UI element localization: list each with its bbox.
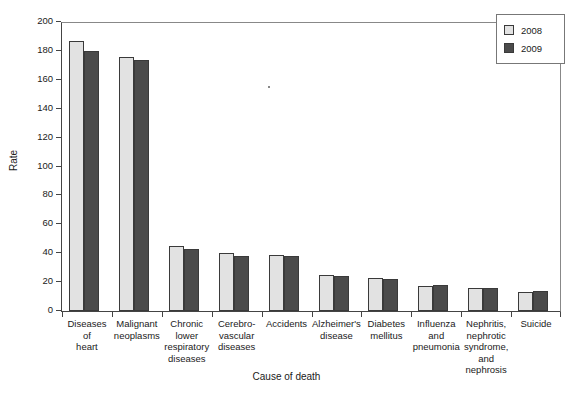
bar-2008[interactable] <box>468 288 483 311</box>
legend-entry-2008[interactable]: 2008 <box>504 21 558 39</box>
bar-2008[interactable] <box>169 246 184 311</box>
y-tick-label: 60 <box>42 217 53 228</box>
bar-2008[interactable] <box>368 278 383 311</box>
bar-group <box>511 22 561 311</box>
y-axis-title: Rate <box>8 141 19 181</box>
bar-2009[interactable] <box>334 276 349 311</box>
chart-legend: 20082009 <box>496 14 565 64</box>
y-tick-label: 0 <box>48 304 53 315</box>
x-axis-label: Suicide <box>507 318 565 330</box>
y-tick-mark <box>56 137 61 138</box>
legend-swatch-icon <box>504 25 514 35</box>
x-axis-label-line: heart <box>58 341 116 353</box>
legend-label: 2009 <box>521 43 542 54</box>
y-tick-label: 180 <box>37 44 53 55</box>
y-tick-label: 120 <box>37 131 53 142</box>
y-tick-label: 80 <box>42 188 53 199</box>
x-axis-label-line: vascular <box>208 330 266 342</box>
x-tick-mark <box>511 312 512 317</box>
y-tick-mark <box>56 166 61 167</box>
bar-2009[interactable] <box>284 256 299 311</box>
y-tick-mark <box>56 194 61 195</box>
x-tick-mark <box>560 312 561 317</box>
bar-group <box>361 22 411 311</box>
y-tick-mark <box>56 252 61 253</box>
x-axis-label-line: and <box>457 353 515 365</box>
y-tick-mark <box>56 21 61 22</box>
bar-group <box>212 22 262 311</box>
bar-2009[interactable] <box>433 285 448 311</box>
x-tick-mark <box>112 312 113 317</box>
legend-swatch-icon <box>504 43 514 53</box>
x-tick-mark <box>212 312 213 317</box>
x-axis-label-line: diseases <box>208 341 266 353</box>
x-axis-label-line: nephrotic <box>457 330 515 342</box>
y-tick-mark <box>56 79 61 80</box>
bar-group <box>262 22 312 311</box>
bar-group <box>411 22 461 311</box>
y-tick-label: 20 <box>42 275 53 286</box>
y-tick-label: 200 <box>37 15 53 26</box>
x-tick-mark <box>411 312 412 317</box>
legend-entry-2009[interactable]: 2009 <box>504 39 558 57</box>
y-tick-mark <box>56 281 61 282</box>
x-tick-mark <box>312 312 313 317</box>
y-tick-mark <box>56 108 61 109</box>
bar-2008[interactable] <box>119 57 134 311</box>
x-tick-mark <box>361 312 362 317</box>
legend-label: 2008 <box>521 25 542 36</box>
x-tick-mark <box>461 312 462 317</box>
bar-2009[interactable] <box>533 291 548 311</box>
x-axis-title: Cause of death <box>0 371 573 382</box>
bar-2009[interactable] <box>383 279 398 311</box>
bar-2009[interactable] <box>234 256 249 311</box>
x-tick-mark <box>162 312 163 317</box>
y-tick-mark <box>56 310 61 311</box>
bars-layer <box>62 22 561 311</box>
bar-2009[interactable] <box>134 60 149 311</box>
bar-2008[interactable] <box>219 253 234 311</box>
y-tick-label: 100 <box>37 160 53 171</box>
bar-2008[interactable] <box>269 255 284 311</box>
bar-2009[interactable] <box>483 288 498 311</box>
bar-2008[interactable] <box>518 292 533 311</box>
bar-2009[interactable] <box>184 249 199 311</box>
bar-2008[interactable] <box>69 41 84 311</box>
x-axis-label-line: diseases <box>158 353 216 365</box>
bar-group <box>112 22 162 311</box>
bar-group <box>162 22 212 311</box>
y-tick-mark <box>56 223 61 224</box>
bar-group <box>312 22 362 311</box>
bar-group <box>461 22 511 311</box>
y-tick-label: 40 <box>42 246 53 257</box>
x-tick-mark <box>62 312 63 317</box>
bar-group <box>62 22 112 311</box>
bar-2008[interactable] <box>418 286 433 311</box>
y-tick-mark <box>56 50 61 51</box>
x-axis-label-line: syndrome, <box>457 341 515 353</box>
x-tick-mark <box>262 312 263 317</box>
bar-2008[interactable] <box>319 275 334 311</box>
x-axis-label-line: Suicide <box>507 318 565 330</box>
bar-chart: 020406080100120140160180200 Rate Disease… <box>0 0 573 393</box>
y-tick-label: 160 <box>37 73 53 84</box>
y-tick-label: 140 <box>37 102 53 113</box>
bar-2009[interactable] <box>84 51 99 311</box>
